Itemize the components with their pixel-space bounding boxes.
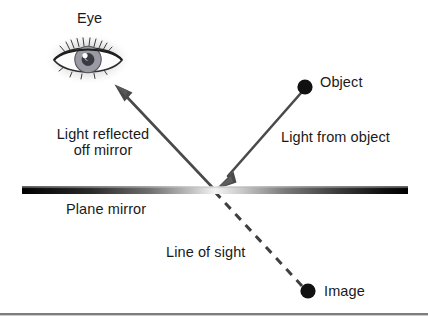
plane-mirror-bar	[22, 187, 408, 195]
plane-mirror-label: Plane mirror	[66, 201, 146, 217]
image-label: Image	[324, 283, 365, 299]
baseline-rule	[0, 313, 428, 315]
eye-icon	[44, 31, 132, 87]
light-from-object-label: Light from object	[281, 129, 390, 145]
line-of-sight-label: Line of sight	[166, 244, 246, 260]
light-reflected-line-2: off mirror	[74, 142, 133, 158]
eye-illustration	[44, 31, 132, 87]
light-reflected-line-1: Light reflected	[57, 126, 150, 142]
ray-diagram-figure: Eye Object Light from object Light refle…	[0, 0, 428, 324]
eye-label: Eye	[77, 10, 102, 26]
image-dot	[300, 283, 315, 298]
object-label: Object	[320, 74, 363, 90]
object-dot	[297, 79, 312, 94]
light-reflected-label: Light reflected off mirror	[42, 126, 164, 158]
line-of-sight-ray	[215, 192, 303, 287]
